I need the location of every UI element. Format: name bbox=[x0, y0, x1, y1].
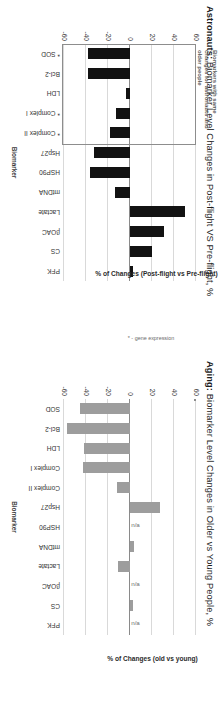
category-label: PFK bbox=[47, 622, 60, 629]
category-label-slot: Hsp27 bbox=[18, 497, 62, 517]
category-label: Complex II bbox=[28, 484, 60, 491]
bar-slot bbox=[64, 163, 196, 183]
bar-slot bbox=[64, 556, 196, 576]
category-label: * Complex I bbox=[26, 110, 60, 117]
category-label-slot: CS bbox=[18, 242, 62, 262]
category-label-slot: Complex II bbox=[18, 478, 62, 498]
bar-slot: n/a bbox=[64, 576, 196, 596]
bar-slot bbox=[64, 478, 196, 498]
bar bbox=[83, 462, 130, 473]
axis-tick-label: -20 bbox=[105, 386, 112, 396]
bar-slot bbox=[64, 222, 196, 242]
category-label-slot: CS bbox=[18, 596, 62, 616]
bar bbox=[118, 561, 130, 572]
astronauts-x-axis-title: Biomarker bbox=[11, 44, 18, 281]
category-label-slot: HSP90 bbox=[18, 163, 62, 183]
category-label-slot: PFK bbox=[18, 261, 62, 281]
figure-stage: Astronauts: Biomarker Level Changes in P… bbox=[0, 0, 220, 709]
astronauts-plot-area: -60-40-200204060 bbox=[64, 44, 196, 281]
category-label: LDH bbox=[47, 445, 60, 452]
axis-tick-label: 0 bbox=[127, 37, 134, 41]
bar-slot bbox=[64, 84, 196, 104]
category-label-slot: Complex I bbox=[18, 458, 62, 478]
bar-slot bbox=[64, 458, 196, 478]
bar bbox=[90, 167, 130, 178]
aging-bars: n/an/an/a bbox=[64, 399, 196, 635]
category-label: CS bbox=[51, 248, 60, 255]
na-label: n/a bbox=[131, 619, 140, 626]
bar bbox=[94, 147, 130, 158]
category-label: Bcl-2 bbox=[45, 70, 60, 77]
category-label-slot: βOAC bbox=[18, 222, 62, 242]
axis-tick-label: -40 bbox=[83, 386, 90, 396]
category-label-slot: SOD bbox=[18, 399, 62, 419]
category-label-slot: * Complex I bbox=[18, 103, 62, 123]
category-label-slot: PFK bbox=[18, 615, 62, 635]
category-label-slot: * Complex II bbox=[18, 123, 62, 143]
bar-slot: n/a bbox=[64, 615, 196, 635]
axis-tick-label: 40 bbox=[171, 389, 178, 396]
panel-aging-title: Aging: Biomarker Level Changes in Older … bbox=[205, 361, 215, 626]
category-label: * SOD bbox=[41, 50, 60, 57]
panel-aging-title-prefix: Aging: bbox=[205, 361, 215, 391]
bar bbox=[130, 246, 152, 257]
bar bbox=[67, 423, 130, 434]
na-label: n/a bbox=[131, 521, 140, 528]
bar bbox=[130, 502, 160, 513]
panel-aging-title-rest: Biomarker Level Changes in Older vs Youn… bbox=[205, 391, 215, 626]
bar-slot bbox=[64, 419, 196, 439]
bar bbox=[126, 88, 130, 99]
bar-slot bbox=[64, 242, 196, 262]
category-label: βOAC bbox=[42, 582, 60, 589]
bar-slot bbox=[64, 497, 196, 517]
category-label-slot: Bcl-2 bbox=[18, 64, 62, 84]
category-label: CS bbox=[51, 602, 60, 609]
aging-category-labels: SODBcl-2LDHComplex IComplex IIHsp27HSP90… bbox=[18, 399, 62, 635]
axis-tick-label: 40 bbox=[171, 34, 178, 41]
category-label-slot: Hsp27 bbox=[18, 143, 62, 163]
aging-x-axis-title: Biomarker bbox=[11, 399, 18, 635]
category-label: * Complex II bbox=[24, 129, 60, 136]
bar-slot bbox=[64, 143, 196, 163]
category-label-slot: HSP90 bbox=[18, 517, 62, 537]
bar bbox=[130, 541, 134, 552]
bar-slot bbox=[64, 103, 196, 123]
category-label: HSP90 bbox=[39, 169, 60, 176]
bar-slot bbox=[64, 44, 196, 64]
bar-slot bbox=[64, 596, 196, 616]
category-label-slot: mtDNA bbox=[18, 182, 62, 202]
astronauts-bars bbox=[64, 44, 196, 281]
category-label: PFK bbox=[47, 268, 60, 275]
axis-tick-label: -40 bbox=[83, 31, 90, 41]
category-label: LDH bbox=[47, 90, 60, 97]
aging-plot-area: n/an/an/a -60-40-200204060 bbox=[64, 399, 196, 635]
axis-tick-label: 0 bbox=[127, 392, 134, 396]
bar-slot bbox=[64, 537, 196, 557]
category-label-slot: * SOD bbox=[18, 44, 62, 64]
category-label: Lactate bbox=[38, 563, 60, 570]
category-label: βOAC bbox=[42, 228, 60, 235]
category-label-slot: LDH bbox=[18, 84, 62, 104]
category-label: Bcl-2 bbox=[45, 425, 60, 432]
category-label-slot: Bcl-2 bbox=[18, 419, 62, 439]
axis-tick-label: -20 bbox=[105, 31, 112, 41]
category-label: Complex I bbox=[30, 464, 60, 471]
bar bbox=[115, 187, 130, 198]
category-label: Lactate bbox=[38, 208, 60, 215]
panel-aging: Aging: Biomarker Level Changes in Older … bbox=[0, 355, 220, 709]
category-label: mtDNA bbox=[39, 189, 60, 196]
bar bbox=[88, 68, 130, 79]
category-label-slot: Lactate bbox=[18, 556, 62, 576]
astronauts-y-axis-title: % of Changes (Post-flight vs Pre-flight) bbox=[77, 270, 221, 277]
bar bbox=[110, 127, 130, 138]
bar-slot bbox=[64, 399, 196, 419]
axis-tick-label: 20 bbox=[149, 389, 156, 396]
axis-tick-label: 60 bbox=[193, 34, 200, 41]
bar bbox=[130, 206, 185, 217]
category-label-slot: mtDNA bbox=[18, 537, 62, 557]
axis-tick-label: 60 bbox=[193, 389, 200, 396]
axis-tick-label: -60 bbox=[61, 31, 68, 41]
bar-slot bbox=[64, 123, 196, 143]
astronauts-y-axis-note: * - gene expression bbox=[128, 335, 174, 341]
panel-astronauts: Astronauts: Biomarker Level Changes in P… bbox=[0, 0, 220, 355]
